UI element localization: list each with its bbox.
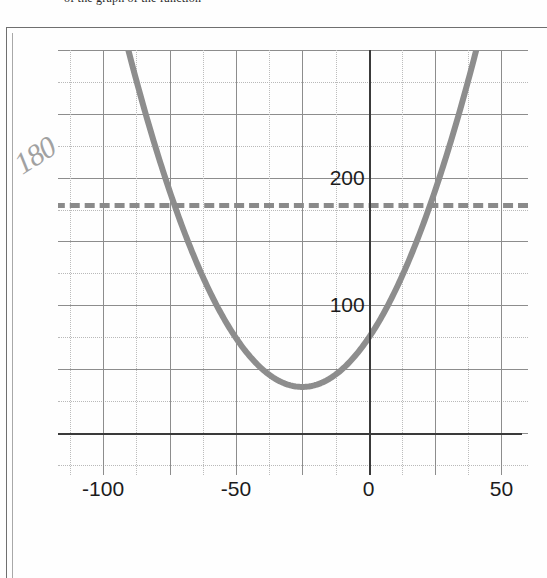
x-tick-label: -100 (82, 477, 124, 501)
threshold-dashed-line (58, 203, 528, 208)
x-tick-label: -50 (221, 477, 251, 501)
plot-clip (58, 50, 528, 475)
y-tick-label: 200 (330, 166, 369, 190)
graph-plot-area: -100-50050 100200 (58, 50, 528, 475)
page-border-top (6, 27, 547, 28)
page-border-left (6, 27, 7, 578)
y-tick-label: 100 (330, 293, 369, 317)
page-border-left-inner (12, 33, 13, 578)
parabola-curve (58, 50, 528, 475)
x-tick-label: 0 (363, 477, 375, 501)
y-axis (369, 50, 371, 475)
x-tick-label: 50 (490, 477, 513, 501)
scanned-page: of the graph of the function -100-50050 … (0, 0, 547, 578)
handwritten-annotation-180: 180 (8, 130, 62, 181)
x-axis (58, 433, 522, 435)
cut-off-header-text: of the graph of the function (0, 0, 547, 5)
